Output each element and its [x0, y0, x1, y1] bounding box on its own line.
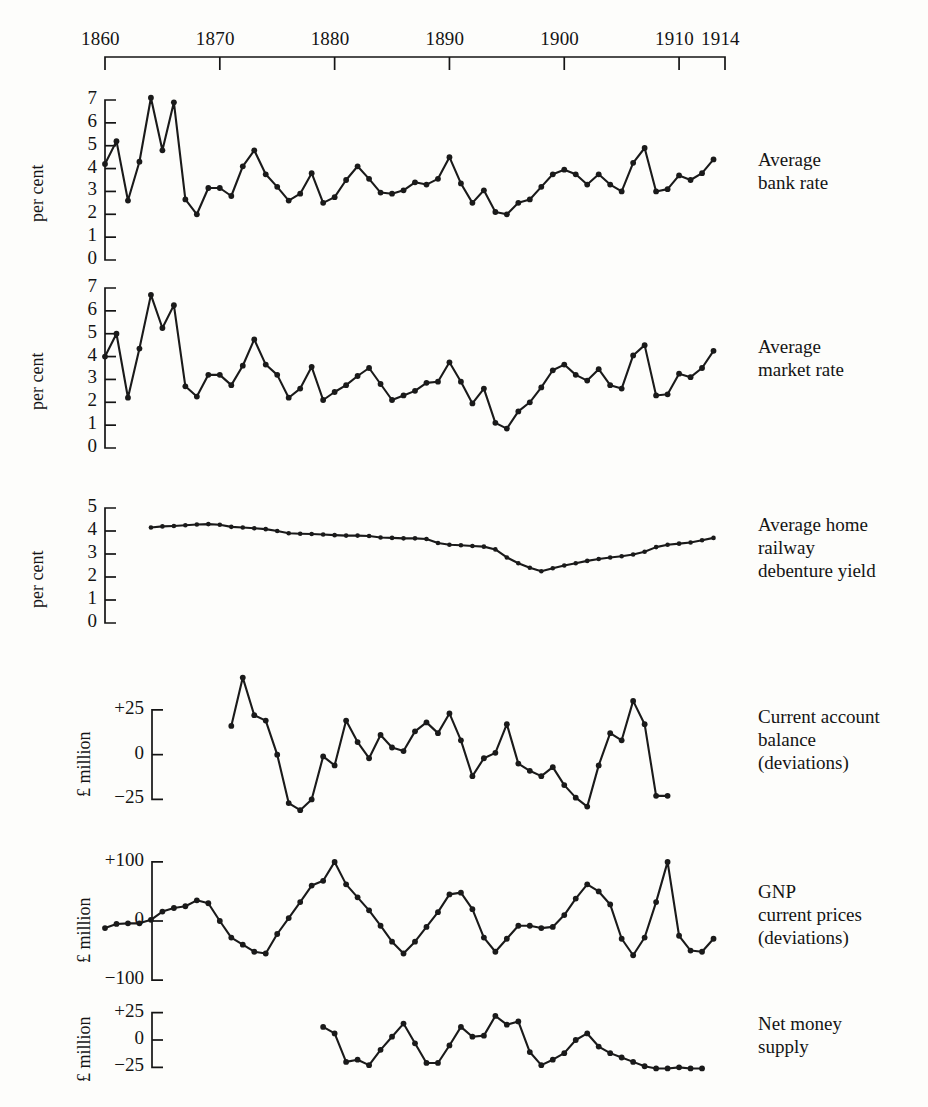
- data-point: [653, 1066, 659, 1072]
- panel-6-yaxis-title: £ million: [74, 1016, 95, 1082]
- panel-6-plot: [0, 0, 928, 1107]
- data-point: [538, 1062, 544, 1068]
- data-point: [688, 1066, 694, 1072]
- data-point: [378, 1047, 384, 1053]
- data-point: [699, 1066, 705, 1072]
- data-point: [320, 1024, 326, 1030]
- data-point: [412, 1040, 418, 1046]
- data-point: [447, 1043, 453, 1049]
- data-point: [470, 1034, 476, 1040]
- data-point: [481, 1033, 487, 1039]
- data-point: [515, 1019, 521, 1025]
- panel-6-line: [323, 1016, 702, 1068]
- data-point: [561, 1050, 567, 1056]
- data-point: [607, 1050, 613, 1056]
- data-point: [630, 1059, 636, 1065]
- data-point: [665, 1066, 671, 1072]
- data-point: [642, 1063, 648, 1069]
- data-point: [504, 1022, 510, 1028]
- data-point: [619, 1055, 625, 1061]
- data-point: [435, 1060, 441, 1066]
- panel-6-series-label: Net money supply: [758, 1012, 842, 1058]
- data-point: [527, 1049, 533, 1055]
- data-point: [676, 1064, 682, 1070]
- data-point: [366, 1062, 372, 1068]
- data-point: [343, 1059, 349, 1065]
- data-point: [550, 1057, 556, 1063]
- data-point: [355, 1057, 361, 1063]
- data-point: [584, 1031, 590, 1037]
- data-point: [458, 1024, 464, 1030]
- data-point: [573, 1037, 579, 1043]
- figure-sheet: 1860187018801890190019101914 01234567per…: [0, 0, 928, 1107]
- data-point: [492, 1013, 498, 1019]
- data-point: [389, 1034, 395, 1040]
- data-point: [596, 1044, 602, 1050]
- data-point: [424, 1060, 430, 1066]
- data-point: [401, 1021, 407, 1027]
- data-point: [332, 1031, 338, 1037]
